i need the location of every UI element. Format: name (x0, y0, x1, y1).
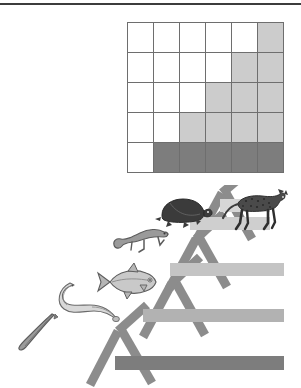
matrix-cell-r1-c3 (179, 22, 206, 53)
matrix-cell-r2-c1 (127, 52, 154, 83)
taxon-turtle (152, 193, 214, 235)
matrix-cell-r3-c2 (153, 82, 180, 113)
matrix-cell-r5-c3 (179, 142, 206, 173)
matrix-row (127, 143, 283, 173)
matrix-cell-r4-c1 (127, 112, 154, 143)
derived-bar-2 (143, 309, 284, 322)
matrix-cell-r3-c1 (127, 82, 154, 113)
matrix-cell-r2-c3 (179, 52, 206, 83)
leopard-icon (218, 185, 292, 237)
matrix-cell-r4-c3 (179, 112, 206, 143)
matrix-row (127, 22, 283, 52)
matrix-cell-r2-c2 (153, 52, 180, 83)
matrix-cell-r5-c5 (231, 142, 258, 173)
derived-bar-1 (115, 356, 284, 370)
cladogram (0, 185, 301, 388)
matrix-row (127, 82, 283, 112)
matrix-cell-r4-c5 (231, 112, 258, 143)
matrix-cell-r4-c2 (153, 112, 180, 143)
matrix-cell-r2-c6 (257, 52, 284, 83)
matrix-cell-r3-c4 (205, 82, 232, 113)
matrix-cell-r3-c6 (257, 82, 284, 113)
matrix-cell-r1-c6 (257, 22, 284, 53)
matrix-cell-r1-c1 (127, 22, 154, 53)
matrix-cell-r5-c4 (205, 142, 232, 173)
character-matrix (127, 22, 283, 173)
derived-bar-3 (170, 263, 284, 276)
matrix-cell-r2-c4 (205, 52, 232, 83)
top-rule (0, 3, 301, 5)
matrix-cell-r1-c4 (205, 22, 232, 53)
matrix-cell-r5-c2 (153, 142, 180, 173)
matrix-cell-r3-c3 (179, 82, 206, 113)
matrix-cell-r5-c6 (257, 142, 284, 173)
matrix-cell-r4-c6 (257, 112, 284, 143)
turtle-icon (152, 193, 214, 235)
matrix-cell-r5-c1 (127, 142, 154, 173)
figure-canvas (0, 0, 301, 388)
matrix-cell-r1-c5 (231, 22, 258, 53)
matrix-cell-r3-c5 (231, 82, 258, 113)
matrix-row (127, 113, 283, 143)
taxon-leopard (218, 185, 292, 237)
matrix-cell-r4-c4 (205, 112, 232, 143)
matrix-cell-r1-c2 (153, 22, 180, 53)
matrix-row (127, 52, 283, 82)
branch-node-1 (90, 331, 118, 385)
matrix-cell-r2-c5 (231, 52, 258, 83)
